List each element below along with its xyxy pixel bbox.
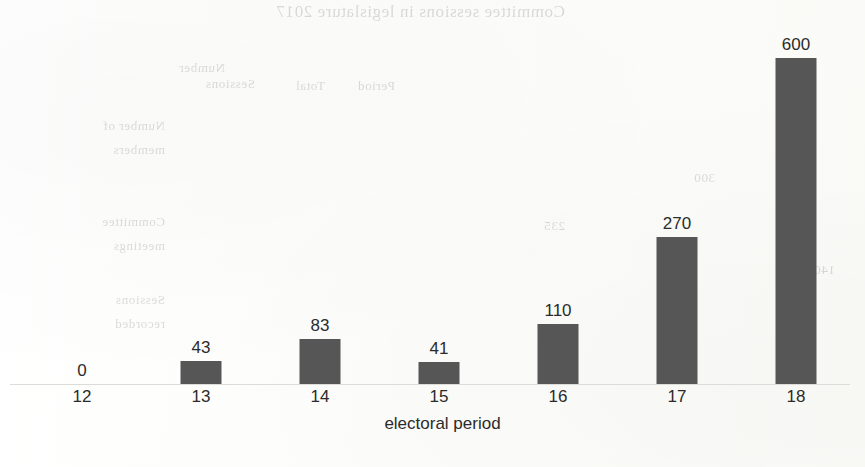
bar[interactable]	[419, 362, 460, 384]
x-axis-tick-label: 14	[311, 388, 330, 405]
bar-group: 012	[23, 0, 142, 467]
x-axis-tick-label: 13	[192, 388, 211, 405]
bar-value-label: 600	[782, 36, 810, 53]
bar-group: 11016	[499, 0, 618, 467]
x-axis-title: electoral period	[0, 414, 865, 434]
bar[interactable]	[538, 324, 579, 384]
x-axis-tick-label: 18	[787, 388, 806, 405]
bar[interactable]	[776, 58, 817, 384]
bar-group: 4313	[142, 0, 261, 467]
bar-group: 4115	[380, 0, 499, 467]
bar-chart: 012431383144115110162701760018 electoral…	[0, 0, 865, 467]
bar-group: 8314	[261, 0, 380, 467]
x-axis-title-text: electoral period	[384, 414, 500, 434]
scanned-page: Committee sessions in legislature 2017Nu…	[0, 0, 865, 467]
bar[interactable]	[657, 237, 698, 384]
bar-value-label: 0	[77, 362, 86, 379]
bar-value-label: 41	[430, 340, 449, 357]
bar[interactable]	[181, 361, 222, 384]
bar-group: 27017	[618, 0, 737, 467]
bar-value-label: 83	[311, 317, 330, 334]
bar[interactable]	[300, 339, 341, 384]
x-axis-tick-label: 16	[549, 388, 568, 405]
bar-value-label: 270	[663, 215, 691, 232]
x-axis-tick-label: 12	[73, 388, 92, 405]
bar-value-label: 43	[192, 339, 211, 356]
x-axis-tick-label: 17	[668, 388, 687, 405]
x-axis-tick-label: 15	[430, 388, 449, 405]
bar-value-label: 110	[544, 302, 571, 319]
bar-group: 60018	[737, 0, 856, 467]
